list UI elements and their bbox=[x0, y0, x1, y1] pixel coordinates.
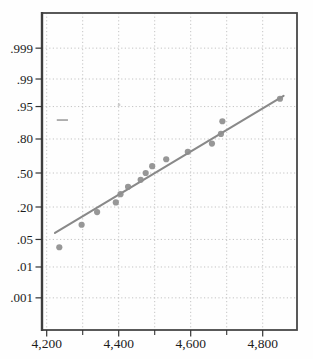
data-point bbox=[163, 156, 169, 162]
data-point bbox=[113, 199, 119, 205]
x-tick-label: 4,600 bbox=[176, 336, 207, 351]
data-point bbox=[218, 131, 224, 137]
data-point bbox=[185, 149, 191, 155]
speck-mark bbox=[118, 104, 121, 107]
data-points-layer bbox=[56, 96, 283, 251]
y-tick-label: .01 bbox=[17, 259, 33, 274]
tick-labels-layer: .999.99.95.80.50.20.05.01.0014,2004,4004… bbox=[10, 41, 278, 351]
data-point bbox=[209, 140, 215, 146]
data-point bbox=[56, 244, 62, 250]
y-tick-label: .99 bbox=[17, 72, 33, 87]
plot-frame bbox=[42, 13, 297, 330]
artifact-layer bbox=[57, 104, 121, 121]
probability-plot-canvas: .999.99.95.80.50.20.05.01.0014,2004,4004… bbox=[0, 0, 313, 359]
fit-line bbox=[55, 96, 284, 233]
data-point bbox=[277, 96, 283, 102]
y-tick-label: .20 bbox=[17, 200, 33, 215]
y-tick-label: .001 bbox=[10, 290, 33, 305]
y-tick-label: .95 bbox=[17, 99, 33, 114]
x-tick-label: 4,800 bbox=[248, 336, 279, 351]
plot-frame-layer bbox=[42, 12, 297, 331]
data-point bbox=[219, 118, 225, 124]
data-point bbox=[149, 163, 155, 169]
probability-plot-figure: .999.99.95.80.50.20.05.01.0014,2004,4004… bbox=[0, 0, 313, 359]
y-tick-label: .05 bbox=[17, 232, 33, 247]
x-tick-label: 4,200 bbox=[32, 336, 63, 351]
y-tick-label: .80 bbox=[17, 131, 33, 146]
data-point bbox=[138, 177, 144, 183]
gridlines-layer bbox=[42, 13, 297, 330]
ticks-layer bbox=[36, 48, 263, 336]
data-point bbox=[125, 184, 131, 190]
x-tick-label: 4,400 bbox=[104, 336, 135, 351]
data-point bbox=[79, 222, 85, 228]
y-tick-label: .50 bbox=[17, 166, 33, 181]
fit-line-layer bbox=[55, 96, 284, 233]
y-tick-label: .999 bbox=[10, 41, 33, 56]
data-point bbox=[143, 170, 149, 176]
data-point bbox=[117, 191, 123, 197]
data-point bbox=[94, 209, 100, 215]
